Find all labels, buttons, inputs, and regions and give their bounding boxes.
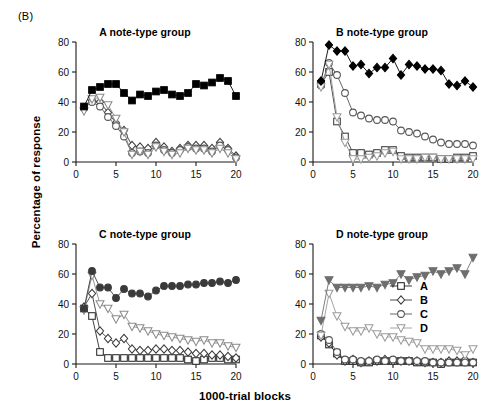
svg-text:20: 20 (230, 371, 242, 382)
svg-text:80: 80 (58, 37, 70, 48)
svg-text:80: 80 (295, 37, 307, 48)
svg-text:10: 10 (150, 169, 162, 180)
svg-text:80: 80 (58, 239, 70, 250)
panel-a-title: A note-type group (50, 26, 240, 38)
svg-text:0: 0 (300, 157, 306, 168)
svg-text:20: 20 (295, 329, 307, 340)
svg-text:C: C (420, 308, 428, 320)
svg-text:15: 15 (427, 169, 439, 180)
panel-c-title: C note-type group (50, 228, 240, 240)
y-axis-label: Percentage of response (30, 82, 42, 282)
panel-a-plot: 02040608005101520 (50, 26, 240, 191)
svg-text:20: 20 (58, 127, 70, 138)
panel-b-plot: 02040608005101520 (287, 26, 477, 191)
svg-text:20: 20 (467, 169, 479, 180)
svg-text:0: 0 (73, 371, 79, 382)
svg-text:40: 40 (58, 299, 70, 310)
svg-text:15: 15 (190, 371, 202, 382)
svg-text:60: 60 (58, 269, 70, 280)
svg-text:20: 20 (58, 329, 70, 340)
svg-text:D: D (420, 322, 428, 334)
svg-text:15: 15 (427, 371, 439, 382)
svg-text:5: 5 (113, 371, 119, 382)
panel-b: B note-type group 02040608005101520 (287, 26, 477, 191)
svg-text:0: 0 (63, 157, 69, 168)
svg-text:80: 80 (295, 239, 307, 250)
svg-text:15: 15 (190, 169, 202, 180)
svg-text:60: 60 (58, 67, 70, 78)
svg-text:10: 10 (150, 371, 162, 382)
svg-text:60: 60 (295, 67, 307, 78)
svg-text:B: B (420, 294, 428, 306)
svg-text:0: 0 (73, 169, 79, 180)
svg-text:A: A (420, 280, 428, 292)
svg-text:5: 5 (113, 169, 119, 180)
svg-text:5: 5 (350, 169, 356, 180)
svg-text:0: 0 (310, 169, 316, 180)
svg-text:40: 40 (295, 299, 307, 310)
svg-text:20: 20 (467, 371, 479, 382)
svg-text:5: 5 (350, 371, 356, 382)
panel-c-plot: 02040608005101520 (50, 228, 240, 393)
svg-text:10: 10 (387, 169, 399, 180)
svg-text:0: 0 (310, 371, 316, 382)
panel-d-title: D note-type group (287, 228, 477, 240)
legend-markers: ABCD (388, 278, 458, 340)
svg-text:40: 40 (295, 97, 307, 108)
legend: ABCD (388, 278, 458, 340)
svg-text:0: 0 (300, 359, 306, 370)
panel-c: C note-type group 02040608005101520 (50, 228, 240, 393)
figure-container: (B) Percentage of response 1000-trial bl… (0, 0, 490, 417)
panel-b-title: B note-type group (287, 26, 477, 38)
svg-text:60: 60 (295, 269, 307, 280)
svg-text:10: 10 (387, 371, 399, 382)
svg-text:0: 0 (63, 359, 69, 370)
svg-text:40: 40 (58, 97, 70, 108)
svg-text:20: 20 (230, 169, 242, 180)
figure-panel-label: (B) (18, 10, 33, 22)
svg-text:20: 20 (295, 127, 307, 138)
panel-a: A note-type group 02040608005101520 (50, 26, 240, 191)
